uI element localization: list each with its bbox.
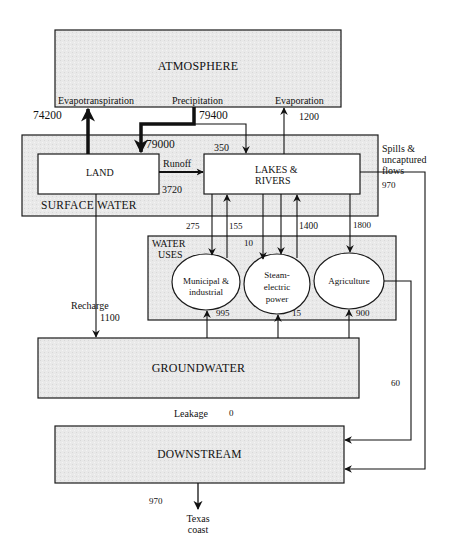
value-evaporation: 1200 <box>299 111 319 122</box>
spills-label-3: flows <box>382 165 404 176</box>
evaporation-label: Evaporation <box>275 95 324 106</box>
value-to-coast: 970 <box>149 496 163 507</box>
value-leakage: 0 <box>229 408 234 419</box>
value-precipitation-lakes: 350 <box>214 142 229 153</box>
atmosphere-title: ATMOSPHERE <box>55 59 341 74</box>
value-runoff: 3720 <box>162 184 182 195</box>
value-to-agriculture: 1800 <box>353 220 371 231</box>
water-uses-title-1: WATER <box>152 238 185 249</box>
surface-water-title: SURFACE WATER <box>41 200 137 211</box>
texas-coast-label-2: coast <box>178 524 218 535</box>
value-gw-agriculture: 900 <box>356 308 370 319</box>
value-from-steam: 1400 <box>299 221 318 232</box>
value-to-steam: 10 <box>244 238 253 249</box>
agriculture-label: Agriculture <box>314 276 384 287</box>
spills-label-2: uncaptured <box>382 154 426 165</box>
value-gw-steam: 15 <box>292 308 301 319</box>
steam-label-3: power <box>244 294 310 305</box>
value-precipitation-total: 79400 <box>199 110 228 121</box>
municipal-label-2: industrial <box>172 287 240 298</box>
groundwater-title: GROUNDWATER <box>38 361 359 376</box>
lakes-rivers-title-1: LAKES & <box>255 164 298 175</box>
municipal-label-1: Municipal & <box>172 276 240 287</box>
value-to-municipal: 275 <box>186 221 200 232</box>
water-uses-title-2: USES <box>158 249 182 260</box>
value-precipitation-land: 79000 <box>146 139 175 150</box>
value-recharge: 1100 <box>100 312 120 323</box>
lakes-rivers-title-2: RIVERS <box>255 175 291 186</box>
land-title: LAND <box>86 167 114 178</box>
evapotranspiration-label: Evapotranspiration <box>58 95 134 106</box>
steam-label-1: Steam- <box>244 270 310 281</box>
value-spills: 970 <box>382 180 396 191</box>
value-from-municipal: 155 <box>229 221 243 232</box>
spills-label-1: Spills & <box>382 143 415 154</box>
steam-label-2: electric <box>244 282 310 293</box>
precipitation-label: Precipitation <box>172 95 223 106</box>
texas-coast-label-1: Texas <box>178 513 218 524</box>
leakage-label: Leakage <box>174 408 208 419</box>
recharge-label: Recharge <box>71 300 109 311</box>
value-evapotranspiration: 74200 <box>33 110 62 121</box>
downstream-title: DOWNSTREAM <box>55 448 344 460</box>
value-agri-return: 60 <box>391 378 400 389</box>
runoff-label: Runoff <box>163 158 191 169</box>
value-gw-municipal: 995 <box>216 308 230 319</box>
